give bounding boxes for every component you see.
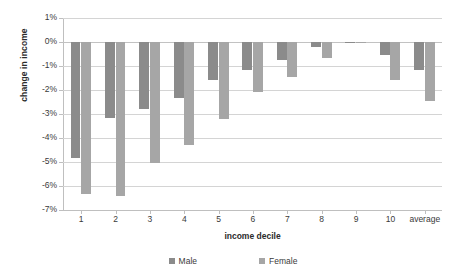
bar-group: 10 [373,18,407,210]
bar-group: 9 [339,18,373,210]
y-tick-label: -1% [29,61,57,70]
bar-female-10[interactable] [390,42,400,80]
y-tick-mark [59,18,63,19]
plot-area: 1%0%-1%-2%-3%-4%-5%-6%-7% 12345678910ave… [63,18,442,210]
bar-groups: 12345678910average [64,18,442,210]
y-tick-label: -3% [29,109,57,118]
bar-female-2[interactable] [116,42,126,196]
bar-female-3[interactable] [150,42,160,163]
y-tick-mark [59,42,63,43]
y-tick-mark [59,162,63,163]
x-axis-title: income decile [63,231,442,241]
legend-label: Female [269,256,297,266]
bar-male-3[interactable] [139,42,149,109]
bar-female-6[interactable] [253,42,263,92]
y-tick-mark [59,186,63,187]
y-tick-mark [59,114,63,115]
y-axis-title: change in income [19,5,29,125]
x-tick-label-average: average [396,214,454,224]
bar-male-8[interactable] [311,42,321,47]
bar-female-5[interactable] [219,42,229,119]
bar-male-7[interactable] [277,42,287,60]
y-tick-mark [59,138,63,139]
y-tick-mark [59,66,63,67]
y-tick-mark [59,210,63,211]
bar-female-average[interactable] [425,42,435,101]
bar-male-4[interactable] [174,42,184,98]
bar-male-6[interactable] [242,42,252,70]
bar-group: 8 [305,18,339,210]
bar-group: 6 [236,18,270,210]
legend-label: Male [179,256,197,266]
bar-female-4[interactable] [184,42,194,145]
bar-chart: change in income 1%0%-1%-2%-3%-4%-5%-6%-… [0,0,466,280]
bar-group: 1 [64,18,98,210]
y-tick-mark [59,90,63,91]
y-tick-label: -5% [29,157,57,166]
y-tick-label: 1% [29,13,57,22]
y-tick-label: -2% [29,85,57,94]
chart-legend: MaleFemale [0,256,466,266]
bar-male-9[interactable] [345,42,355,43]
y-tick-label: -7% [29,205,57,214]
bar-female-7[interactable] [287,42,297,77]
bar-group: 5 [201,18,235,210]
bar-male-average[interactable] [414,42,424,70]
bar-female-1[interactable] [81,42,91,194]
bar-group: 7 [270,18,304,210]
legend-item-female[interactable]: Female [259,256,297,266]
y-tick-label: 0% [29,37,57,46]
bar-male-5[interactable] [208,42,218,80]
legend-swatch-icon [169,258,175,264]
bar-male-1[interactable] [71,42,81,158]
legend-item-male[interactable]: Male [169,256,197,266]
bar-group: 2 [98,18,132,210]
legend-swatch-icon [259,258,265,264]
bar-female-8[interactable] [322,42,332,58]
y-tick-label: -6% [29,181,57,190]
bar-female-9[interactable] [356,42,366,43]
bar-group: 3 [133,18,167,210]
bar-male-2[interactable] [105,42,115,118]
bar-group: average [408,18,442,210]
y-tick-label: -4% [29,133,57,142]
bar-group: 4 [167,18,201,210]
bar-male-10[interactable] [380,42,390,55]
